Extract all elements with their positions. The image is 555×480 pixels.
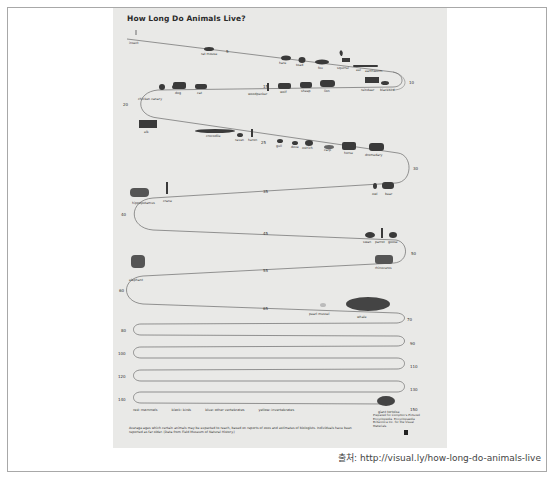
svg-text:parrot: parrot xyxy=(375,240,385,244)
svg-text:fox: fox xyxy=(318,66,323,70)
source-caption: 출처: http://visual.ly/how-long-do-animals… xyxy=(338,451,541,464)
svg-text:whale: whale xyxy=(357,315,366,319)
svg-text:60: 60 xyxy=(119,288,125,293)
legend-mammals: red: mammals xyxy=(133,408,158,412)
svg-text:elk: elk xyxy=(144,130,149,134)
svg-text:owl: owl xyxy=(372,192,378,196)
svg-text:insect: insect xyxy=(129,41,139,45)
svg-text:carp: carp xyxy=(324,148,331,152)
svg-text:chicken canary: chicken canary xyxy=(138,97,162,101)
svg-text:10: 10 xyxy=(409,80,415,85)
eel-icon xyxy=(353,65,378,67)
svg-text:pearl mussel: pearl mussel xyxy=(309,312,330,316)
svg-text:heron: heron xyxy=(248,138,257,142)
wolf-icon xyxy=(278,83,291,89)
svg-text:120: 120 xyxy=(118,374,126,379)
raven-icon xyxy=(237,133,243,137)
legend-invertebrates: yellow: invertebrates xyxy=(259,408,295,412)
chicken-icon xyxy=(159,84,165,90)
svg-text:crane: crane xyxy=(163,199,172,203)
svg-text:70: 70 xyxy=(407,317,413,322)
svg-text:80: 80 xyxy=(121,328,127,333)
cat-icon xyxy=(195,84,207,89)
svg-text:dove: dove xyxy=(291,145,299,149)
svg-text:cat: cat xyxy=(197,91,203,95)
insect-icon xyxy=(135,30,137,35)
svg-text:earthworm: earthworm xyxy=(365,69,382,73)
svg-text:45: 45 xyxy=(263,231,269,236)
svg-text:rhinoceros: rhinoceros xyxy=(375,266,392,270)
svg-text:hare: hare xyxy=(279,61,286,65)
svg-text:40: 40 xyxy=(121,212,127,217)
svg-text:swan: swan xyxy=(363,240,371,244)
svg-text:toad: toad xyxy=(296,63,303,67)
legend-birds: black: birds xyxy=(172,408,192,412)
swan-icon xyxy=(365,232,375,238)
svg-text:25: 25 xyxy=(261,140,267,145)
squirrel-icon xyxy=(340,50,351,62)
svg-text:110: 110 xyxy=(410,364,418,369)
dromedary-icon xyxy=(369,143,384,151)
footnote: Average ages which certain animals may b… xyxy=(129,426,359,434)
svg-text:eel: eel xyxy=(356,68,361,72)
svg-text:140: 140 xyxy=(118,397,126,402)
svg-text:dromedary: dromedary xyxy=(365,153,383,157)
source-label: 출처: xyxy=(338,453,357,463)
svg-text:sheep: sheep xyxy=(301,89,311,93)
svg-text:65: 65 xyxy=(263,306,269,311)
canary-icon xyxy=(172,85,176,89)
svg-text:20: 20 xyxy=(123,102,129,107)
crane-icon xyxy=(166,182,168,194)
crocodile-icon xyxy=(195,129,235,133)
source-url[interactable]: http://visual.ly/how-long-do-animals-liv… xyxy=(360,453,541,463)
hippopotamus-icon xyxy=(130,188,149,197)
svg-text:lion: lion xyxy=(324,89,330,93)
svg-text:horse: horse xyxy=(344,151,353,155)
svg-text:30: 30 xyxy=(413,166,419,171)
hare-icon xyxy=(281,56,291,61)
infographic-poster: How Long Do Animals Live? xyxy=(113,8,447,448)
svg-text:100: 100 xyxy=(118,351,126,356)
svg-text:elephant: elephant xyxy=(129,278,144,282)
woodpecker-icon xyxy=(267,83,269,91)
svg-text:squirrel: squirrel xyxy=(337,66,349,70)
svg-text:hippopotamus: hippopotamus xyxy=(132,201,155,205)
reindeer-icon xyxy=(365,77,379,83)
giant-tortoise-icon xyxy=(377,396,395,406)
gull-icon xyxy=(277,139,283,143)
svg-text:bear: bear xyxy=(385,192,393,196)
svg-text:raven: raven xyxy=(235,138,244,142)
elephant-icon xyxy=(131,255,145,268)
svg-text:130: 130 xyxy=(410,387,418,392)
svg-text:50: 50 xyxy=(411,251,417,256)
svg-text:35: 35 xyxy=(263,189,269,194)
legend: red: mammals black: birds blue: other ve… xyxy=(133,408,433,412)
sheep-icon xyxy=(300,82,312,88)
legend-other-vertebrates: blue: other vertebrates xyxy=(205,408,244,412)
svg-text:wolf: wolf xyxy=(280,90,287,94)
heron-icon xyxy=(251,129,253,137)
elk-icon xyxy=(139,120,157,128)
svg-text:rat mouse: rat mouse xyxy=(201,52,217,56)
svg-text:55: 55 xyxy=(263,268,269,273)
svg-text:ostrich: ostrich xyxy=(302,146,313,150)
blackbird-icon xyxy=(381,81,389,85)
rat-icon xyxy=(204,47,214,51)
publisher-logo-icon xyxy=(404,430,408,435)
lion-icon xyxy=(320,80,335,87)
pearl-mussel-icon xyxy=(320,303,326,307)
rhinoceros-icon xyxy=(375,255,393,264)
svg-text:90: 90 xyxy=(410,341,416,346)
svg-text:woodpecker: woodpecker xyxy=(248,92,268,96)
parrot-icon xyxy=(381,228,383,238)
svg-text:dog: dog xyxy=(175,91,181,95)
timeline-path xyxy=(127,39,410,404)
owl-icon xyxy=(373,183,377,189)
horse-icon xyxy=(342,142,356,150)
publisher-credit: Prepared for Compton's Pictured Encyclop… xyxy=(373,414,425,428)
lifespan-timeline: 5 10 15 20 25 30 35 40 45 50 55 60 65 70… xyxy=(113,8,447,448)
bear-icon xyxy=(382,182,394,189)
svg-text:crocodile: crocodile xyxy=(206,134,220,138)
goose-icon xyxy=(389,232,397,238)
whale-icon xyxy=(346,297,390,311)
